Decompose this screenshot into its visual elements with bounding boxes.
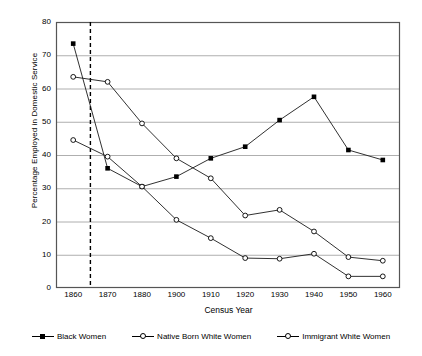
open-circle-marker-icon xyxy=(132,332,154,340)
data-point xyxy=(208,236,213,241)
data-point xyxy=(174,217,179,222)
data-point xyxy=(71,138,76,143)
data-point xyxy=(312,95,317,100)
series-native-born-white-women xyxy=(71,138,385,279)
data-point xyxy=(277,118,282,123)
data-point xyxy=(105,154,110,159)
series-black-women xyxy=(71,41,385,189)
legend-item[interactable]: Immigrant White Women xyxy=(277,332,390,341)
data-point xyxy=(243,256,248,261)
legend-label: Black Women xyxy=(57,332,106,341)
data-point xyxy=(277,256,282,261)
chart-container: Percentage Employed in Domestic Service … xyxy=(0,0,422,356)
data-point xyxy=(174,174,179,179)
data-point xyxy=(346,148,351,153)
data-point xyxy=(243,213,248,218)
data-point xyxy=(381,158,386,163)
data-point xyxy=(208,176,213,181)
series-line xyxy=(73,44,383,187)
data-point xyxy=(312,229,317,234)
series-line xyxy=(73,140,383,276)
data-point xyxy=(243,144,248,149)
data-point xyxy=(277,207,282,212)
chart-legend: Black WomenNative Born White WomenImmigr… xyxy=(0,328,422,344)
legend-item[interactable]: Black Women xyxy=(32,332,106,341)
legend-label: Native Born White Women xyxy=(157,332,251,341)
open-circle-marker-icon xyxy=(277,332,299,340)
legend-label: Immigrant White Women xyxy=(302,332,390,341)
data-point xyxy=(346,274,351,279)
data-point xyxy=(346,255,351,260)
filled-square-marker-icon xyxy=(32,332,54,340)
data-point xyxy=(380,274,385,279)
data-point xyxy=(71,74,76,79)
legend-item[interactable]: Native Born White Women xyxy=(132,332,251,341)
series-immigrant-white-women xyxy=(71,74,385,263)
data-point xyxy=(105,166,110,171)
data-point xyxy=(312,251,317,256)
data-point xyxy=(140,121,145,126)
series-line xyxy=(73,77,383,261)
data-point xyxy=(105,79,110,84)
data-point xyxy=(380,258,385,263)
data-point xyxy=(71,41,76,46)
data-point xyxy=(209,156,214,161)
data-point xyxy=(174,156,179,161)
plot-area xyxy=(0,0,422,356)
data-point xyxy=(140,184,145,189)
